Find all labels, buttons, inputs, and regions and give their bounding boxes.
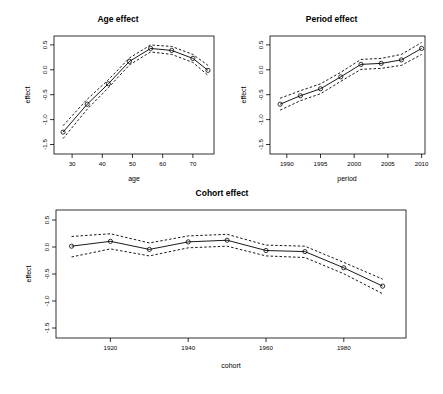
plot-frame-period (270, 36, 425, 154)
series-group-age (61, 45, 210, 139)
y-tick-label-period-2: -0.5 (257, 89, 264, 100)
panel-period-effect: Period effect -1.5 -1.0 -0.5 0.0 0.5 199… (224, 14, 439, 186)
x-tick-label-cohort-2: 1960 (259, 344, 273, 351)
y-tick-label-period-1: -1.0 (257, 114, 264, 125)
data-point-cohort-8 (381, 284, 385, 288)
panel-title-cohort: Cohort effect (8, 188, 436, 198)
y-axis-period: -1.5 -1.0 -0.5 0.0 0.5 (257, 40, 270, 150)
y-tick-label-period-4: 0.5 (257, 40, 264, 49)
cohort-effect-chart-svg: -1.5 -1.0 -0.5 0.0 0.5 1920 1940 1960 19… (8, 188, 436, 394)
y-tick-label-age-3: 0.0 (41, 65, 48, 74)
y-axis-age: -1.5 -1.0 -0.5 0.0 0.5 (41, 40, 54, 150)
y-tick-label-cohort-2: -0.5 (43, 268, 50, 279)
plot-frame-age (54, 36, 214, 154)
y-tick-label-age-2: -0.5 (41, 89, 48, 100)
series-group-cohort (69, 234, 384, 294)
x-axis-title-period: period (337, 175, 357, 183)
series-line-cohort-lower-ci (72, 246, 383, 294)
x-axis-title-age: age (128, 175, 140, 183)
y-tick-label-cohort-1: -1.0 (43, 295, 50, 306)
x-tick-label-cohort-0: 1920 (104, 344, 118, 351)
panel-age-effect: Age effect -1.5 -1.0 -0.5 0.0 0.5 30 40 … (8, 14, 228, 186)
x-tick-label-age-4: 70 (189, 160, 196, 167)
y-tick-label-period-0: -1.5 (257, 139, 264, 150)
plot-frame-cohort (56, 210, 406, 338)
x-tick-label-age-2: 50 (129, 160, 136, 167)
x-axis-title-cohort: cohort (221, 362, 241, 369)
series-line-period-lower-ci (280, 54, 422, 110)
x-tick-label-cohort-3: 1980 (337, 344, 351, 351)
x-tick-label-period-1: 1995 (314, 160, 328, 167)
y-axis-cohort: -1.5 -1.0 -0.5 0.0 0.5 (43, 215, 56, 333)
x-tick-label-period-2: 2000 (347, 160, 361, 167)
y-tick-label-age-4: 0.5 (41, 40, 48, 49)
panel-title-period: Period effect (224, 14, 439, 24)
y-tick-label-age-1: -1.0 (41, 114, 48, 125)
data-point-age-0 (61, 130, 65, 134)
y-tick-label-period-3: 0.0 (257, 65, 264, 74)
series-line-age-upper-ci (63, 45, 208, 126)
x-tick-label-period-4: 2010 (415, 160, 429, 167)
y-axis-title-age: effect (24, 86, 31, 103)
y-axis-title-period: effect (240, 86, 247, 103)
panel-title-age: Age effect (8, 14, 228, 24)
x-axis-period: 1990 1995 2000 2005 2010 (280, 154, 429, 167)
x-axis-age: 30 40 50 60 70 (69, 154, 197, 167)
x-axis-cohort: 1920 1940 1960 1980 (104, 338, 352, 351)
x-tick-label-period-0: 1990 (280, 160, 294, 167)
series-line-period-estimate (280, 48, 422, 104)
y-tick-label-age-0: -1.5 (41, 139, 48, 150)
series-line-age-estimate (63, 48, 208, 132)
x-tick-label-age-3: 60 (159, 160, 166, 167)
y-tick-label-cohort-0: -1.5 (43, 322, 50, 333)
series-line-cohort-estimate (72, 240, 383, 286)
panel-cohort-effect: Cohort effect -1.5 -1.0 -0.5 0.0 0.5 192… (8, 188, 436, 394)
y-tick-label-cohort-3: 0.0 (43, 242, 50, 251)
x-tick-label-age-1: 40 (99, 160, 106, 167)
series-group-period (278, 42, 424, 110)
age-effect-chart-svg: -1.5 -1.0 -0.5 0.0 0.5 30 40 50 60 70 ag… (8, 14, 228, 186)
period-effect-chart-svg: -1.5 -1.0 -0.5 0.0 0.5 1990 1995 2000 20… (224, 14, 439, 186)
x-tick-label-age-0: 30 (69, 160, 76, 167)
series-line-age-lower-ci (63, 52, 208, 139)
x-tick-label-cohort-1: 1940 (181, 344, 195, 351)
y-tick-label-cohort-4: 0.5 (43, 215, 50, 224)
y-axis-title-cohort: effect (25, 265, 32, 282)
x-tick-label-period-3: 2005 (381, 160, 395, 167)
